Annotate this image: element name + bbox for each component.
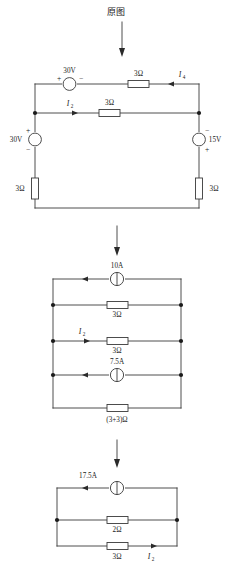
resistor-3ohm-bottom-right-label: 3Ω	[210, 185, 219, 193]
source-30v-left: 30V + −	[10, 126, 42, 154]
source-15v-right-minus: −	[205, 126, 209, 135]
node-right	[175, 518, 179, 522]
node-left-upper	[51, 303, 55, 307]
resistor-3ohm-branch3: 3Ω	[107, 338, 128, 356]
current-I2-top-subscript: 2	[71, 103, 74, 109]
source-7p5a: 7.5A	[82, 358, 125, 382]
source-30v-top-label: 30V	[63, 67, 76, 75]
arrow-step1-to-step2	[114, 440, 120, 468]
source-15v-right-plus: +	[205, 145, 209, 154]
page-title: 原图	[107, 7, 125, 17]
current-I2-step2-subscript: 2	[152, 556, 155, 562]
resistor-2ohm-label: 2Ω	[113, 526, 122, 534]
resistor-2ohm: 2Ω	[107, 517, 128, 535]
source-7p5a-label: 7.5A	[110, 358, 125, 366]
source-30v-top: 30V + −	[57, 67, 83, 90]
resistor-3ohm-branch2: 3Ω	[107, 302, 128, 320]
node-right-lower	[179, 373, 183, 377]
resistor-3ohm-bottom-right: 3Ω	[196, 178, 219, 199]
resistor-3ohm-bottom-step2-label: 3Ω	[113, 553, 122, 561]
source-15v-right: 15V − +	[193, 126, 222, 154]
resistor-3ohm-top-right-label: 3Ω	[134, 70, 143, 78]
resistor-3ohm-top-right: 3Ω	[128, 70, 149, 88]
source-30v-top-minus: −	[79, 74, 83, 83]
resistor-3ohm-bottom-left-label: 3Ω	[16, 185, 25, 193]
node-right-upper	[179, 303, 183, 307]
resistor-3ohm-bottom-left: 3Ω	[16, 178, 39, 199]
resistor-3ohm-middle-label: 3Ω	[105, 99, 114, 107]
source-17p5a-label: 17.5A	[79, 472, 98, 480]
source-30v-left-label: 30V	[10, 136, 23, 144]
current-I4-subscript: 4	[183, 74, 186, 80]
circuit-diagram-canvas: 原图 30V + − 3Ω I	[0, 0, 233, 566]
node-right-middle	[179, 339, 183, 343]
source-17p5a-direction-arrow	[82, 486, 88, 491]
source-7p5a-direction-arrow	[82, 373, 88, 378]
resistor-3ohm-branch2-label: 3Ω	[113, 311, 122, 319]
figure-step1-circuit: 10A 3Ω 3Ω I 2 7.5A (3+3)Ω	[51, 262, 183, 424]
current-I2-step1-label: I	[78, 327, 82, 336]
source-10a-label: 10A	[111, 262, 124, 270]
node-left	[33, 111, 37, 115]
resistor-3ohm-middle: 3Ω	[99, 99, 120, 117]
current-I2-top-label: I	[66, 99, 70, 108]
resistor-3ohm-bottom-step2: 3Ω	[107, 543, 128, 562]
figure-original-circuit: 30V + − 3Ω I 4 3Ω I 2 30	[10, 67, 222, 208]
source-30v-top-plus: +	[57, 74, 61, 83]
arrow-original-to-step1	[114, 226, 120, 256]
source-30v-left-plus: +	[26, 126, 30, 135]
node-left	[55, 518, 59, 522]
current-I2-step2-label: I	[147, 552, 151, 561]
circuit-worksheet-page: 原图 30V + − 3Ω I	[0, 0, 233, 566]
source-30v-left-minus: −	[26, 145, 30, 154]
source-15v-right-label: 15V	[209, 136, 222, 144]
node-left-middle	[51, 339, 55, 343]
source-17p5a: 17.5A	[79, 472, 125, 495]
node-right	[197, 111, 201, 115]
source-10a-direction-arrow	[82, 277, 88, 282]
resistor-3ohm-branch3-label: 3Ω	[113, 347, 122, 355]
node-left-lower	[51, 373, 55, 377]
current-I2-step1-subscript: 2	[83, 331, 86, 337]
source-10a: 10A	[82, 262, 125, 286]
resistor-3plus3ohm-bottom-label: (3+3)Ω	[106, 416, 127, 424]
arrow-title-to-original	[119, 22, 125, 57]
figure-step2-circuit: 17.5A 2Ω 3Ω I 2	[55, 472, 179, 562]
current-I4-label: I	[178, 70, 182, 79]
resistor-3plus3ohm-bottom: (3+3)Ω	[106, 405, 128, 425]
